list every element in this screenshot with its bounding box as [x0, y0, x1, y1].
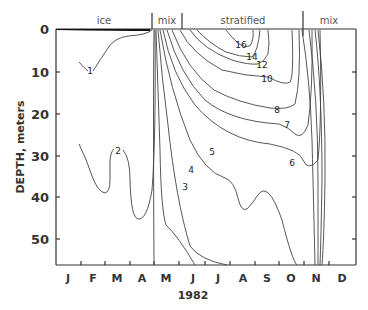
y-tick-50: 50	[31, 232, 49, 247]
contour-labels: 1 2 3 4 5 6 7 8 10 12 14 16	[87, 40, 295, 192]
band-label-mix-fall: mix	[320, 15, 339, 26]
y-tick-labels: 0 10 20 30 40 50	[31, 22, 49, 247]
contour-label-16: 16	[235, 40, 247, 50]
month-oct: O	[286, 272, 295, 285]
month-nov: N	[311, 272, 320, 285]
month-jun: J	[190, 272, 195, 285]
x-tick-labels: J F M A M J J A S O N D	[65, 272, 347, 285]
y-tick-10: 10	[31, 65, 49, 80]
month-jan: J	[65, 272, 70, 285]
x-axis-title-year: 1982	[178, 289, 209, 302]
contour-3	[156, 30, 195, 265]
y-tick-20: 20	[31, 107, 49, 122]
month-feb: F	[89, 272, 97, 285]
band-label-ice: ice	[97, 15, 111, 26]
contour-label-8: 8	[274, 105, 280, 115]
band-label-stratified: stratified	[221, 15, 266, 26]
month-sep: S	[263, 272, 271, 285]
contour-mix-spring-1	[154, 30, 155, 265]
ice-cover-wedge	[56, 29, 150, 31]
y-axis-title: DEPTH, meters	[14, 100, 27, 193]
month-dec: D	[337, 272, 346, 285]
plot-frame	[56, 29, 356, 265]
contour-4	[158, 30, 227, 265]
contour-2	[79, 30, 155, 219]
contour-1	[79, 30, 152, 71]
contour-label-14: 14	[246, 52, 258, 62]
contour-label-4: 4	[188, 165, 194, 175]
month-apr: A	[138, 272, 147, 285]
contour-mix-fall-2	[309, 30, 318, 265]
y-tick-40: 40	[31, 190, 49, 205]
contour-label-7: 7	[284, 120, 290, 130]
month-aug: A	[239, 272, 248, 285]
isotherm-contour-chart: ice mix stratified mix 0 10 20 30 40 50 …	[0, 0, 368, 310]
contour-6	[163, 30, 321, 166]
contour-label-2: 2	[115, 146, 121, 156]
month-may: M	[161, 272, 172, 285]
month-mar: M	[112, 272, 123, 285]
contour-label-5: 5	[209, 147, 215, 157]
band-label-mix-spring: mix	[158, 15, 177, 26]
contour-label-10: 10	[261, 74, 273, 84]
month-jul: J	[215, 272, 220, 285]
contour-label-12: 12	[256, 60, 267, 70]
contour-label-6: 6	[289, 158, 295, 168]
y-tick-30: 30	[31, 149, 49, 164]
contour-label-1: 1	[87, 66, 93, 76]
contour-label-3: 3	[182, 182, 188, 192]
y-tick-0: 0	[40, 22, 49, 37]
